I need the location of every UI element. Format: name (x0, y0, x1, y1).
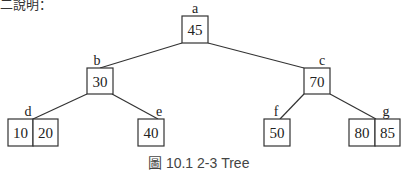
edge-a-c (208, 43, 304, 68)
node-a-label: a (192, 1, 199, 16)
node-e-label: e (156, 104, 162, 119)
node-d-key-1: 10 (13, 125, 28, 141)
node-e-key: 40 (144, 125, 159, 141)
node-b-label: b (94, 53, 101, 68)
edge-b-e (112, 94, 158, 119)
node-f-label: f (274, 104, 279, 119)
node-a-key: 45 (188, 22, 203, 38)
node-g-key-2: 85 (380, 125, 395, 141)
node-d-label: d (25, 104, 32, 119)
node-g-key-1: 80 (355, 125, 370, 141)
node-g-label: g (383, 104, 390, 119)
figure-caption: 圖 10.1 2-3 Tree (148, 152, 249, 172)
node-f-key: 50 (270, 125, 285, 141)
edge-a-b (100, 43, 182, 68)
tree-diagram: a b c d e f g 45 30 70 10 20 40 50 80 85 (0, 0, 403, 175)
edge-b-d (33, 94, 87, 119)
node-c-label: c (319, 53, 325, 68)
node-d-key-2: 20 (38, 125, 53, 141)
edge-c-g (330, 94, 376, 119)
node-c-key: 70 (310, 74, 325, 90)
edge-c-f (280, 94, 304, 119)
node-b-key: 30 (93, 74, 108, 90)
